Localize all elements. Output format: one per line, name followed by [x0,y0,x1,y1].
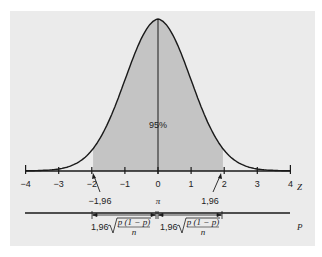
z-tick-label: 1 [189,179,194,189]
svg-text:1,96: 1,96 [160,222,178,232]
z-axis-label: Z [297,182,303,192]
pos-crit-arrow [213,176,220,192]
pi-label: π [156,196,161,206]
normal-distribution-chart: −4−3−2−101234 Z 95% −1,96 π 1,96 P 1,96 … [0,0,322,257]
svg-text:p (1 − p): p (1 − p) [186,217,219,227]
neg-crit-label: −1,96 [89,196,112,206]
z-tick-label: −1 [120,179,130,189]
z-tick-label: 0 [155,179,160,189]
pos-crit-label: 1,96 [201,196,219,206]
neg-crit-arrowhead [92,173,96,179]
svg-text:p (1 − p): p (1 − p) [117,217,150,227]
z-tick-label: −3 [54,179,64,189]
svg-text:n: n [132,227,137,237]
z-tick-label: 4 [288,179,293,189]
p-axis-label: P [296,222,303,232]
svg-text:1,96: 1,96 [91,222,109,232]
z-tick-label: 2 [222,179,227,189]
interval-formula-left: 1,96 p (1 − p) n [91,217,151,237]
pos-crit-arrowhead [218,173,222,179]
z-tick-label: −4 [20,179,30,189]
center-percentage-label: 95% [149,120,167,130]
interval-formula-right: 1,96 p (1 − p) n [160,217,220,237]
svg-text:n: n [201,227,206,237]
z-tick-label: 3 [255,179,260,189]
